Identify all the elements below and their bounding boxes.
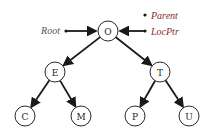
edge-O-T-arrow-icon [116, 37, 152, 65]
parent-pointer-label: Parent [150, 10, 178, 21]
locptr-pointer-label: LocPtr [150, 26, 179, 37]
parent-pointer: Parent [143, 10, 178, 21]
node-label: T [157, 68, 163, 78]
tree-node-O: O [98, 21, 118, 41]
node-label: E [52, 68, 59, 78]
node-label: O [104, 27, 111, 37]
node-label: P [132, 112, 138, 122]
tree-node-C: C [15, 106, 35, 126]
tree-node-U: U [179, 106, 199, 126]
tree-node-P: P [125, 106, 145, 126]
tree-node-M: M [71, 106, 91, 126]
tree-nodes: OETCMPU [15, 21, 199, 126]
root-pointer-label: Root [40, 25, 60, 36]
tree-node-T: T [150, 62, 170, 82]
edge-E-C-arrow-icon [31, 80, 49, 107]
locptr-pointer: LocPtr [120, 26, 179, 37]
root-pointer: Root [40, 25, 96, 36]
edge-T-P-arrow-icon [140, 81, 155, 107]
node-label: C [22, 112, 29, 122]
binary-tree-diagram: OETCMPU Root Parent LocPtr [0, 0, 215, 135]
tree-node-E: E [45, 62, 65, 82]
edge-T-U-arrow-icon [166, 80, 183, 106]
node-label: M [76, 112, 85, 122]
edge-E-M-arrow-icon [60, 81, 75, 107]
node-label: U [185, 112, 193, 122]
parent-pointer-dot-icon [143, 13, 146, 16]
edge-O-E-arrow-icon [64, 37, 100, 65]
